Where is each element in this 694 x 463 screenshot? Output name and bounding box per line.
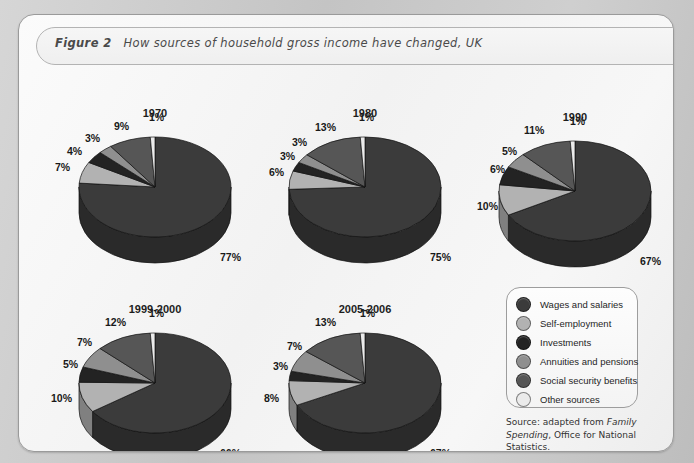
legend-label: Wages and salaries bbox=[540, 299, 623, 310]
pie-value-label: 5% bbox=[502, 145, 517, 157]
pie-value-label: 5% bbox=[63, 358, 78, 370]
pie-value-label: 10% bbox=[477, 200, 498, 212]
pie-value-label: 11% bbox=[524, 124, 544, 136]
legend-label: Annuities and pensions bbox=[540, 356, 638, 367]
legend-swatch-self-employment bbox=[516, 316, 531, 331]
legend-item[interactable]: Investments bbox=[507, 333, 637, 352]
pie-value-label: 3% bbox=[292, 136, 307, 148]
pie-value-label: 1% bbox=[360, 307, 375, 319]
legend-label: Investments bbox=[540, 337, 591, 348]
pie-value-label: 4% bbox=[67, 145, 82, 157]
pie-value-label: 66% bbox=[220, 447, 241, 452]
pie-value-label: 1% bbox=[359, 111, 374, 123]
pie-chart-2005-2006 bbox=[289, 333, 441, 451]
pie-value-label: 3% bbox=[280, 150, 295, 162]
pie-value-label: 6% bbox=[269, 166, 284, 178]
pie-value-label: 67% bbox=[430, 447, 451, 452]
pie-value-label: 67% bbox=[640, 255, 661, 267]
legend-label: Other sources bbox=[540, 394, 600, 405]
legend-swatch-other-sources bbox=[516, 392, 531, 407]
pie-value-label: 77% bbox=[220, 251, 241, 263]
pie-value-label: 6% bbox=[490, 163, 505, 175]
legend-label: Social security benefits bbox=[540, 375, 637, 386]
pie-value-label: 7% bbox=[287, 340, 302, 352]
pie-value-label: 1% bbox=[570, 115, 585, 127]
pie-chart-1999-2000 bbox=[79, 333, 231, 451]
pie-value-label: 7% bbox=[55, 161, 70, 173]
pie-value-label: 10% bbox=[51, 392, 72, 404]
legend-swatch-annuities-and-pensions bbox=[516, 354, 531, 369]
pie-value-label: 9% bbox=[114, 120, 129, 132]
pie-value-label: 3% bbox=[273, 360, 288, 372]
pie-value-label: 12% bbox=[105, 316, 126, 328]
source-prefix: Source: adapted from bbox=[506, 417, 607, 427]
legend-swatch-wages-and-salaries bbox=[516, 297, 531, 312]
legend-item[interactable]: Wages and salaries bbox=[507, 295, 637, 314]
pie-value-label: 75% bbox=[430, 251, 451, 263]
pie-value-label: 3% bbox=[85, 132, 100, 144]
pie-value-label: 8% bbox=[264, 392, 279, 404]
pie-value-label: 1% bbox=[149, 111, 164, 123]
legend-item[interactable]: Self-employment bbox=[507, 314, 637, 333]
pie-value-label: 13% bbox=[315, 121, 336, 133]
legend-item[interactable]: Social security benefits bbox=[507, 371, 637, 390]
source-note: Source: adapted from Family Spending, Of… bbox=[506, 416, 674, 452]
legend: Wages and salaries Self-employment Inves… bbox=[506, 287, 638, 408]
legend-item[interactable]: Other sources bbox=[507, 390, 637, 409]
pie-value-label: 1% bbox=[149, 307, 164, 319]
pie-chart-1980 bbox=[289, 137, 441, 263]
legend-label: Self-employment bbox=[540, 318, 611, 329]
pie-chart-1990 bbox=[499, 141, 651, 267]
pie-value-label: 7% bbox=[77, 336, 92, 348]
pie-value-label: 13% bbox=[315, 316, 336, 328]
legend-swatch-investments bbox=[516, 335, 531, 350]
legend-swatch-social-security-benefits bbox=[516, 373, 531, 388]
figure-card: Figure 2 How sources of household gross … bbox=[18, 14, 674, 452]
pie-chart-1970 bbox=[79, 137, 231, 263]
legend-item[interactable]: Annuities and pensions bbox=[507, 352, 637, 371]
